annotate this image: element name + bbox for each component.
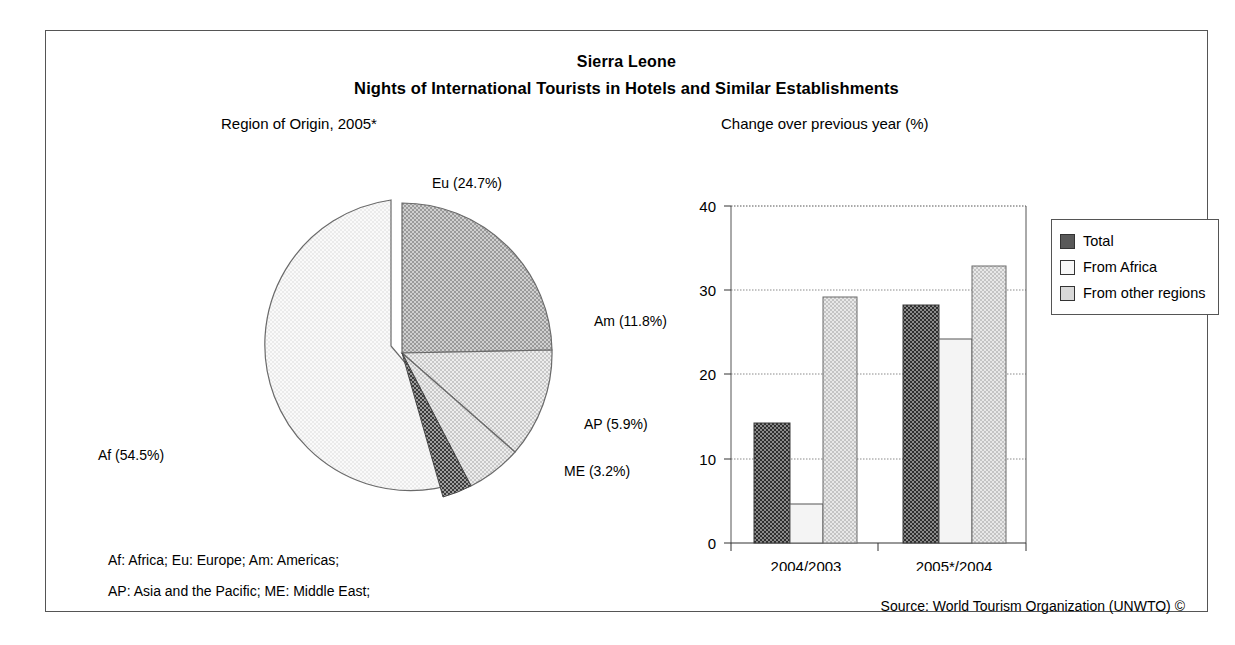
footnote-line-1: Af: Africa; Eu: Europe; Am: Americas; bbox=[108, 552, 339, 568]
legend-item-from-other-regions[interactable]: From other regions bbox=[1060, 280, 1206, 306]
pie-chart: Eu (24.7%) Am (11.8%) AP (5.9%) ME (3.2%… bbox=[196, 141, 616, 521]
legend-item-total[interactable]: Total bbox=[1060, 228, 1206, 254]
pie-slice-eu bbox=[402, 203, 552, 353]
bar-subtitle: Change over previous year (%) bbox=[721, 115, 929, 132]
legend-swatch-total bbox=[1060, 234, 1075, 249]
bar-chart-legend: Total From Africa From other regions bbox=[1051, 219, 1219, 315]
chart-frame: Sierra Leone Nights of International Tou… bbox=[45, 30, 1208, 612]
pie-chart-svg bbox=[196, 141, 616, 521]
legend-item-from-africa[interactable]: From Africa bbox=[1060, 254, 1206, 280]
y-tick-20: 20 bbox=[699, 366, 716, 383]
x-label-2004-2003: 2004/2003 bbox=[771, 558, 842, 571]
pie-label-me: ME (3.2%) bbox=[564, 463, 630, 479]
legend-label-from-other-regions: From other regions bbox=[1083, 285, 1206, 301]
y-tick-40: 40 bbox=[699, 198, 716, 215]
y-tick-0: 0 bbox=[708, 535, 716, 552]
pie-label-af: Af (54.5%) bbox=[98, 447, 164, 463]
bar-africa-2005 bbox=[939, 339, 972, 543]
footnote-line-2: AP: Asia and the Pacific; ME: Middle Eas… bbox=[108, 583, 370, 599]
bar-total-2005 bbox=[903, 305, 939, 543]
bar-total-2004 bbox=[754, 423, 790, 543]
legend-swatch-from-other-regions bbox=[1060, 286, 1075, 301]
bar-other-2005 bbox=[972, 266, 1006, 543]
pie-label-eu: Eu (24.7%) bbox=[432, 175, 502, 191]
y-tick-10: 10 bbox=[699, 451, 716, 468]
bar-chart: 40 30 20 10 0 20 bbox=[636, 131, 1056, 571]
main-title: Nights of International Tourists in Hote… bbox=[46, 79, 1207, 98]
x-axis-ticks bbox=[731, 543, 1026, 551]
legend-label-total: Total bbox=[1083, 233, 1114, 249]
bar-other-2004 bbox=[823, 297, 857, 543]
screenshot-root: Sierra Leone Nights of International Tou… bbox=[0, 0, 1235, 645]
y-axis-ticks: 40 30 20 10 0 bbox=[699, 198, 731, 552]
bar-africa-2004 bbox=[790, 504, 823, 543]
bar-chart-svg: 40 30 20 10 0 20 bbox=[636, 131, 1056, 571]
x-label-2005-2004: 2005*/2004 bbox=[916, 558, 993, 571]
country-title: Sierra Leone bbox=[46, 53, 1207, 71]
legend-label-from-africa: From Africa bbox=[1083, 259, 1157, 275]
y-tick-30: 30 bbox=[699, 282, 716, 299]
legend-swatch-from-africa bbox=[1060, 260, 1075, 275]
source-note: Source: World Tourism Organization (UNWT… bbox=[881, 598, 1185, 614]
pie-subtitle: Region of Origin, 2005* bbox=[221, 115, 377, 132]
